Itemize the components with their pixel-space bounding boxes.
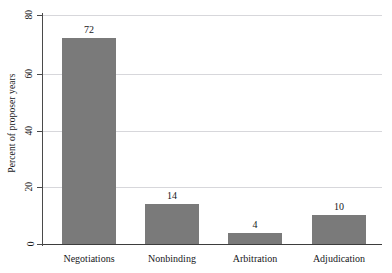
y-axis-title: Percent of proposer years xyxy=(0,0,24,246)
y-tick-label-40: 40 xyxy=(8,124,34,138)
x-axis-label-arbitration: Arbitration xyxy=(213,254,297,264)
bar-negotiations xyxy=(62,38,116,244)
x-axis-line xyxy=(42,244,382,245)
y-tick-mark-80 xyxy=(37,15,43,16)
x-axis-label-adjudication: Adjudication xyxy=(297,254,381,264)
y-tick-mark-60 xyxy=(37,74,43,75)
bar-value-negotiations: 72 xyxy=(62,25,116,35)
y-tick-label-60: 60 xyxy=(8,67,34,81)
bar-nonbinding xyxy=(145,204,199,244)
plot-area: 80 60 40 20 0 72 14 4 10 Negotiations No… xyxy=(42,10,382,246)
x-axis-label-nonbinding: Nonbinding xyxy=(130,254,214,264)
y-axis-line xyxy=(42,13,43,246)
bar-adjudication xyxy=(312,215,366,244)
y-tick-mark-20 xyxy=(37,187,43,188)
y-tick-mark-0 xyxy=(37,244,43,245)
y-tick-mark-40 xyxy=(37,131,43,132)
y-tick-label-80: 80 xyxy=(8,8,34,22)
y-tick-label-0: 0 xyxy=(8,237,34,251)
bar-arbitration xyxy=(228,233,282,244)
bar-chart: Percent of proposer years 80 60 40 20 0 xyxy=(0,0,392,273)
y-tick-label-20: 20 xyxy=(8,180,34,194)
gridline-80 xyxy=(43,15,382,16)
bar-value-arbitration: 4 xyxy=(228,220,282,230)
bar-value-nonbinding: 14 xyxy=(145,191,199,201)
bar-value-adjudication: 10 xyxy=(312,202,366,212)
x-axis-label-negotiations: Negotiations xyxy=(47,254,131,264)
y-axis-title-text: Percent of proposer years xyxy=(7,73,17,172)
